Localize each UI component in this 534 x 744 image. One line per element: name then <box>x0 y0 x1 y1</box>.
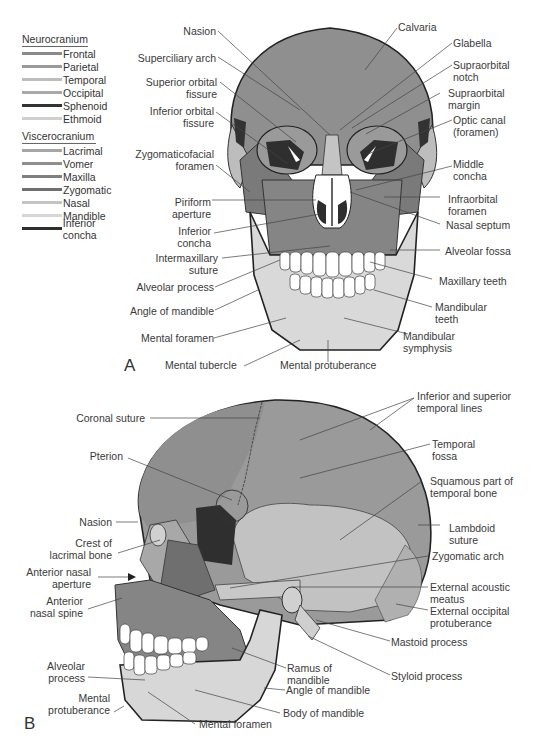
label-zygomaticofacial-foramen-2: foramen <box>175 160 214 172</box>
swatch-parietal <box>22 65 62 68</box>
label-mastoid-process: Mastoid process <box>391 636 467 648</box>
swatch-frontal <box>22 52 62 55</box>
label-nasion-a: Nasion <box>183 25 216 37</box>
label-superciliary-arch: Superciliary arch <box>138 52 216 64</box>
swatch-inferior-concha <box>22 227 62 230</box>
swatch-sphenoid <box>22 104 62 107</box>
label-crest-lacrimal-1: Crest of <box>75 537 112 549</box>
skull-anterior-view <box>212 28 452 366</box>
label-mental-protuberance-b-2: protuberance <box>48 704 110 716</box>
legend-item-temporal: Temporal <box>22 73 132 86</box>
label-lambdoid-suture-1: Lambdoid <box>449 522 495 534</box>
label-angle-of-mandible-a: Angle of mandible <box>130 305 214 317</box>
label-alveolar-process-a: Alveolar process <box>136 281 214 293</box>
legend-item-zygomatic: Zygomatic <box>22 183 132 196</box>
label-lambdoid-suture-2: suture <box>449 534 478 546</box>
label-maxillary-teeth: Maxillary teeth <box>439 275 507 287</box>
label-alveolar-process-b-2: process <box>48 672 85 684</box>
swatch-mandible <box>22 214 62 217</box>
label-supraorbital-notch-2: notch <box>453 71 479 83</box>
label-crest-lacrimal-2: lacrimal bone <box>50 549 112 561</box>
label-mandibular-symphysis-1: Mandibular <box>403 330 455 342</box>
label-mental-foramen-b: Mental foramen <box>199 718 272 730</box>
panel-letter-a: A <box>124 356 135 376</box>
legend-item-occipital: Occipital <box>22 86 132 99</box>
label-inferior-orbital-fissure-2: fissure <box>183 117 214 129</box>
label-coronal-suture: Coronal suture <box>76 412 145 424</box>
label-external-acoustic-meatus-1: External acoustic <box>430 581 510 593</box>
swatch-vomer <box>22 162 62 165</box>
label-middle-concha-2: concha <box>453 170 487 182</box>
legend-item-inferior-concha: Inferior concha <box>22 222 132 235</box>
label-mental-protuberance-a: Mental protuberance <box>280 359 376 371</box>
label-calvaria: Calvaria <box>398 21 437 33</box>
swatch-temporal <box>22 78 62 81</box>
label-infraorbital-foramen-1: Infraorbital <box>448 193 498 205</box>
label-anterior-nasal-aperture-2: aperture <box>52 578 91 590</box>
label-intermaxillary-suture-2: suture <box>189 264 218 276</box>
label-optic-canal-2: (foramen) <box>453 126 499 138</box>
swatch-zygomatic <box>22 188 62 191</box>
label-body-of-mandible: Body of mandible <box>283 707 364 719</box>
label-superior-orbital-fissure-2: fissure <box>186 88 217 100</box>
swatch-lacrimal <box>22 149 62 152</box>
label-mental-foramen-a: Mental foramen <box>141 332 214 344</box>
label-external-acoustic-meatus-2: meatus <box>430 593 464 605</box>
legend-item-sphenoid: Sphenoid <box>22 99 132 112</box>
label-alveolar-fossa: Alveolar fossa <box>445 245 511 257</box>
label-optic-canal-1: Optic canal <box>453 114 506 126</box>
panel-letter-b: B <box>24 714 35 734</box>
label-zygomatic-arch: Zygomatic arch <box>432 550 504 562</box>
label-alveolar-process-b-1: Alveolar <box>47 660 85 672</box>
label-inferior-orbital-fissure-1: Inferior orbital <box>150 105 214 117</box>
label-supraorbital-margin-2: margin <box>448 99 480 111</box>
swatch-occipital <box>22 91 62 94</box>
legend-item-nasal: Nasal <box>22 196 132 209</box>
legend-item-frontal: Frontal <box>22 47 132 60</box>
label-external-occipital-protuberance-2: protuberance <box>430 617 492 629</box>
label-mental-tubercle: Mental tubercle <box>165 359 237 371</box>
label-supraorbital-notch-1: Supraorbital <box>453 59 510 71</box>
label-temporal-lines-1: Inferior and superior <box>417 390 511 402</box>
label-temporal-fossa-2: fossa <box>432 450 457 462</box>
swatch-maxilla <box>22 175 62 178</box>
label-temporal-fossa-1: Temporal <box>432 438 475 450</box>
label-inferior-concha-2: concha <box>177 237 211 249</box>
swatch-ethmoid <box>22 117 62 120</box>
label-pterion: Pterion <box>90 450 123 462</box>
label-nasion-b: Nasion <box>79 516 112 528</box>
label-ramus-of-mandible-1: Ramus of <box>287 662 332 674</box>
label-mandibular-teeth-2: teeth <box>435 313 458 325</box>
skull-lateral-view <box>88 398 440 724</box>
legend-heading-neurocranium: Neurocranium <box>22 33 88 47</box>
swatch-nasal <box>22 201 62 204</box>
label-angle-of-mandible-b: Angle of mandible <box>286 684 370 696</box>
label-piriform-aperture-2: aperture <box>172 208 211 220</box>
label-temporal-lines-2: temporal lines <box>417 402 482 414</box>
bone-color-legend: Neurocranium Frontal Parietal Temporal O… <box>22 33 132 235</box>
label-anterior-nasal-spine-1: Anterior <box>46 595 83 607</box>
legend-item-vomer: Vomer <box>22 157 132 170</box>
label-infraorbital-foramen-2: foramen <box>448 205 487 217</box>
label-supraorbital-margin-1: Supraorbital <box>448 87 505 99</box>
legend-heading-viscerocranium: Viscerocranium <box>22 130 96 144</box>
label-squamous-temporal-2: temporal bone <box>430 487 497 499</box>
label-squamous-temporal-1: Squamous part of <box>430 475 513 487</box>
label-mandibular-teeth-1: Mandibular <box>435 301 487 313</box>
label-styloid-process: Styloid process <box>391 670 462 682</box>
label-piriform-aperture-1: Piriform <box>175 196 211 208</box>
label-mandibular-symphysis-2: symphysis <box>403 342 452 354</box>
label-mental-protuberance-b-1: Mental <box>78 692 110 704</box>
label-glabella: Glabella <box>453 37 492 49</box>
legend-item-lacrimal: Lacrimal <box>22 144 132 157</box>
label-anterior-nasal-aperture-1: Anterior nasal <box>26 566 91 578</box>
label-nasal-septum: Nasal septum <box>446 219 510 231</box>
label-anterior-nasal-spine-2: nasal spine <box>30 607 83 619</box>
label-inferior-concha-1: Inferior <box>178 225 211 237</box>
label-intermaxillary-suture-1: Intermaxillary <box>156 252 218 264</box>
label-external-occipital-protuberance-1: External occipital <box>430 605 509 617</box>
label-superior-orbital-fissure-1: Superior orbital <box>146 76 217 88</box>
legend-item-maxilla: Maxilla <box>22 170 132 183</box>
legend-item-ethmoid: Ethmoid <box>22 112 132 125</box>
legend-item-parietal: Parietal <box>22 60 132 73</box>
